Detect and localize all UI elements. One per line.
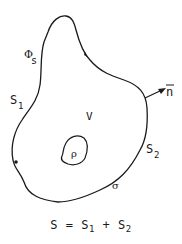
formula-lhs: S <box>50 218 58 232</box>
label-s1: S <box>10 93 17 107</box>
label-rho: ρ <box>71 148 77 159</box>
label-phi-s-sub: s <box>31 55 37 66</box>
outer-boundary-surface <box>12 16 147 202</box>
formula-term-1: S <box>81 218 89 232</box>
label-sigma: σ <box>112 180 119 191</box>
formula-term-2-sub: 2 <box>126 224 132 234</box>
label-s2: S <box>146 142 153 156</box>
label-s1-sub: 1 <box>18 101 23 111</box>
surface-volume-diagram: Φ s S 1 V ρ S 2 σ n <box>0 0 182 244</box>
formula-term-2: S <box>118 218 126 232</box>
formula-plus: + <box>95 218 118 232</box>
label-normal-n: n <box>166 85 173 99</box>
junction-point-icon <box>14 160 18 164</box>
label-s2-sub: 2 <box>154 150 159 160</box>
surface-sum-formula: S = S1 + S2 <box>0 218 182 234</box>
formula-equals: = <box>58 218 81 232</box>
label-volume-v: V <box>86 110 93 123</box>
